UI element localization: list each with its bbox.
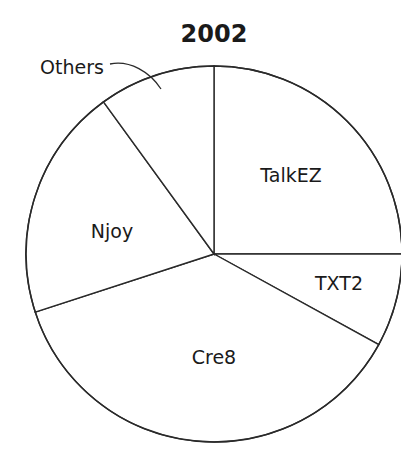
label-talkez: TalkEZ <box>259 164 321 186</box>
chart-title: 2002 <box>181 20 248 48</box>
pie-chart: 2002 TalkEZTXT2Cre8NjoyOthers <box>0 0 401 454</box>
label-njoy: Njoy <box>91 220 133 242</box>
label-txt2: TXT2 <box>314 272 363 294</box>
label-others: Others <box>40 56 104 78</box>
label-cre8: Cre8 <box>192 346 236 368</box>
slice-talkez <box>214 66 401 254</box>
pie-slices <box>26 66 401 442</box>
